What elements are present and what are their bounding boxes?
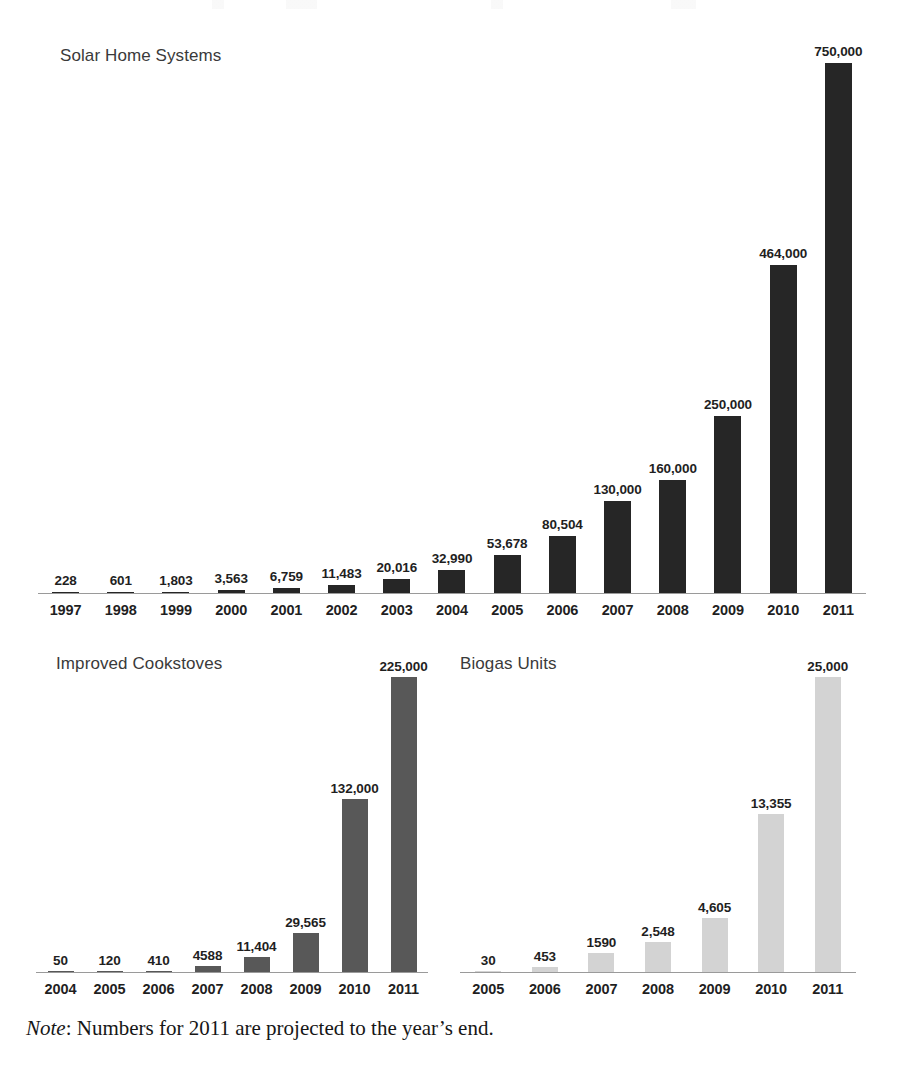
bar[interactable] [825,63,852,593]
x-axis-tick-label: 2006 [535,602,590,618]
x-axis-tick-label: 2010 [756,602,811,618]
x-axis-tick-label: 2006 [134,981,183,997]
note-text: : Numbers for 2011 are projected to the … [66,1016,494,1040]
bar[interactable] [244,957,270,972]
bar-group: 1,803 [148,63,203,593]
bar-group: 464,000 [756,63,811,593]
x-axis-tick-label: 2011 [379,981,428,997]
bar-value-label: 120 [85,953,134,968]
bar[interactable] [383,579,410,593]
x-axis-tick-label: 2011 [811,602,866,618]
x-axis-tick-label: 2009 [281,981,330,997]
bar-value-label: 228 [38,573,93,588]
x-axis-tick-label: 2008 [645,602,700,618]
x-axis-tick-label: 2005 [85,981,134,997]
bar-group: 160,000 [645,63,700,593]
bar-value-label: 1590 [573,935,630,950]
bar-value-label: 50 [36,953,85,968]
bar-value-label: 1,803 [148,573,203,588]
bar-value-label: 13,355 [743,796,800,811]
plot-area-biogas: 3020054532006159020072,54820084,60520091… [456,650,872,1050]
x-axis-line [38,593,866,594]
bar[interactable] [702,918,728,972]
x-axis-tick-label: 2007 [183,981,232,997]
bar-value-label: 453 [517,949,574,964]
bar-group: 130,000 [590,63,645,593]
bar-group: 250,000 [700,63,755,593]
bar-value-label: 30 [460,953,517,968]
bar[interactable] [659,480,686,593]
bar-value-label: 25,000 [799,659,856,674]
bar-group: 32,990 [424,63,479,593]
bar[interactable] [815,677,841,972]
x-axis-tick-label: 2005 [480,602,535,618]
x-axis-tick-label: 2002 [314,602,369,618]
bar[interactable] [604,501,631,593]
bar-value-label: 32,990 [424,551,479,566]
x-axis-tick-label: 2005 [460,981,517,997]
bar-group: 80,504 [535,63,590,593]
bar[interactable] [588,953,614,972]
bar-value-label: 464,000 [756,246,811,261]
bar-value-label: 410 [134,953,183,968]
bar-group: 453 [517,677,574,972]
bar-group: 225,000 [379,677,428,972]
bar-value-label: 20,016 [369,560,424,575]
bar[interactable] [758,814,784,972]
chart-biogas-units: Biogas Units 3020054532006159020072,5482… [456,650,872,1050]
bar-group: 132,000 [330,677,379,972]
bar-value-label: 225,000 [379,659,428,674]
bar-group: 228 [38,63,93,593]
bar-group: 53,678 [480,63,535,593]
bar[interactable] [645,942,671,972]
x-axis-tick-label: 1999 [148,602,203,618]
x-axis-tick-label: 2000 [204,602,259,618]
x-axis-tick-label: 2011 [799,981,856,997]
bar-group: 750,000 [811,63,866,593]
bar[interactable] [494,555,521,593]
bar[interactable] [438,570,465,593]
bar-value-label: 750,000 [811,44,866,59]
x-axis-tick-label: 2010 [330,981,379,997]
bar-value-label: 601 [93,573,148,588]
bar-group: 30 [460,677,517,972]
figure-canvas: Solar Home Systems 228199760119981,80319… [0,0,900,1074]
bar[interactable] [293,933,319,972]
bar-value-label: 4,605 [686,900,743,915]
bar-value-label: 250,000 [700,397,755,412]
bar-value-label: 29,565 [281,915,330,930]
bar[interactable] [770,265,797,593]
bar[interactable] [342,799,368,972]
x-axis-tick-label: 2009 [686,981,743,997]
bar[interactable] [549,536,576,593]
bar-group: 20,016 [369,63,424,593]
figure-note: Note: Numbers for 2011 are projected to … [26,1016,494,1041]
bar-value-label: 11,404 [232,939,281,954]
bar-group: 25,000 [799,677,856,972]
x-axis-tick-label: 2007 [590,602,645,618]
bar[interactable] [328,585,355,593]
x-axis-tick-label: 2010 [743,981,800,997]
x-axis-tick-label: 1998 [93,602,148,618]
bar-group: 4588 [183,677,232,972]
x-axis-tick-label: 2006 [517,981,574,997]
x-axis-tick-label: 2008 [630,981,687,997]
bar-value-label: 3,563 [204,571,259,586]
bar-group: 11,483 [314,63,369,593]
bar-group: 50 [36,677,85,972]
bar-value-label: 132,000 [330,781,379,796]
bar-value-label: 130,000 [590,482,645,497]
x-axis-line [36,972,428,973]
bar-value-label: 53,678 [480,536,535,551]
bar[interactable] [391,677,417,972]
bar[interactable] [714,416,741,593]
bar-group: 1590 [573,677,630,972]
bar-group: 120 [85,677,134,972]
note-label: Note [26,1016,66,1040]
bar-value-label: 11,483 [314,566,369,581]
chart-solar-home-systems: Solar Home Systems 228199760119981,80319… [32,30,872,650]
x-axis-tick-label: 2009 [700,602,755,618]
bar-value-label: 160,000 [645,461,700,476]
x-axis-tick-label: 2004 [36,981,85,997]
top-artifact [150,0,770,9]
